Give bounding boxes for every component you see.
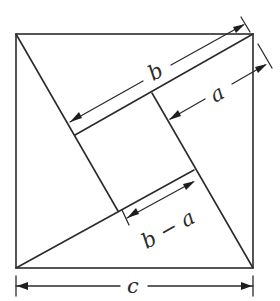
- line-top-right-to-inner: [75, 34, 253, 135]
- arrowhead-icon: [169, 110, 181, 120]
- dimension-b-tick: [241, 17, 250, 32]
- outer-square: [16, 34, 253, 268]
- label-c: c: [127, 274, 139, 298]
- label-b-minus-a: b − a: [137, 205, 198, 254]
- arrowhead-icon: [233, 24, 245, 33]
- arrowhead-icon: [17, 282, 28, 290]
- label-b: b: [144, 58, 167, 86]
- arrowhead-icon: [241, 282, 252, 290]
- dimension-c: c: [16, 274, 253, 298]
- arrowhead-icon: [70, 112, 82, 122]
- line-top-left-to-inner: [16, 34, 118, 211]
- dimension-a: a: [169, 44, 272, 120]
- label-a: a: [206, 80, 229, 107]
- pythagorean-dissection-diagram: b a b − a c: [0, 0, 280, 301]
- arrowhead-icon: [127, 208, 139, 218]
- arrowhead-icon: [255, 64, 267, 73]
- arrowhead-icon: [183, 181, 195, 190]
- dimension-b-minus-a: b − a: [122, 181, 199, 254]
